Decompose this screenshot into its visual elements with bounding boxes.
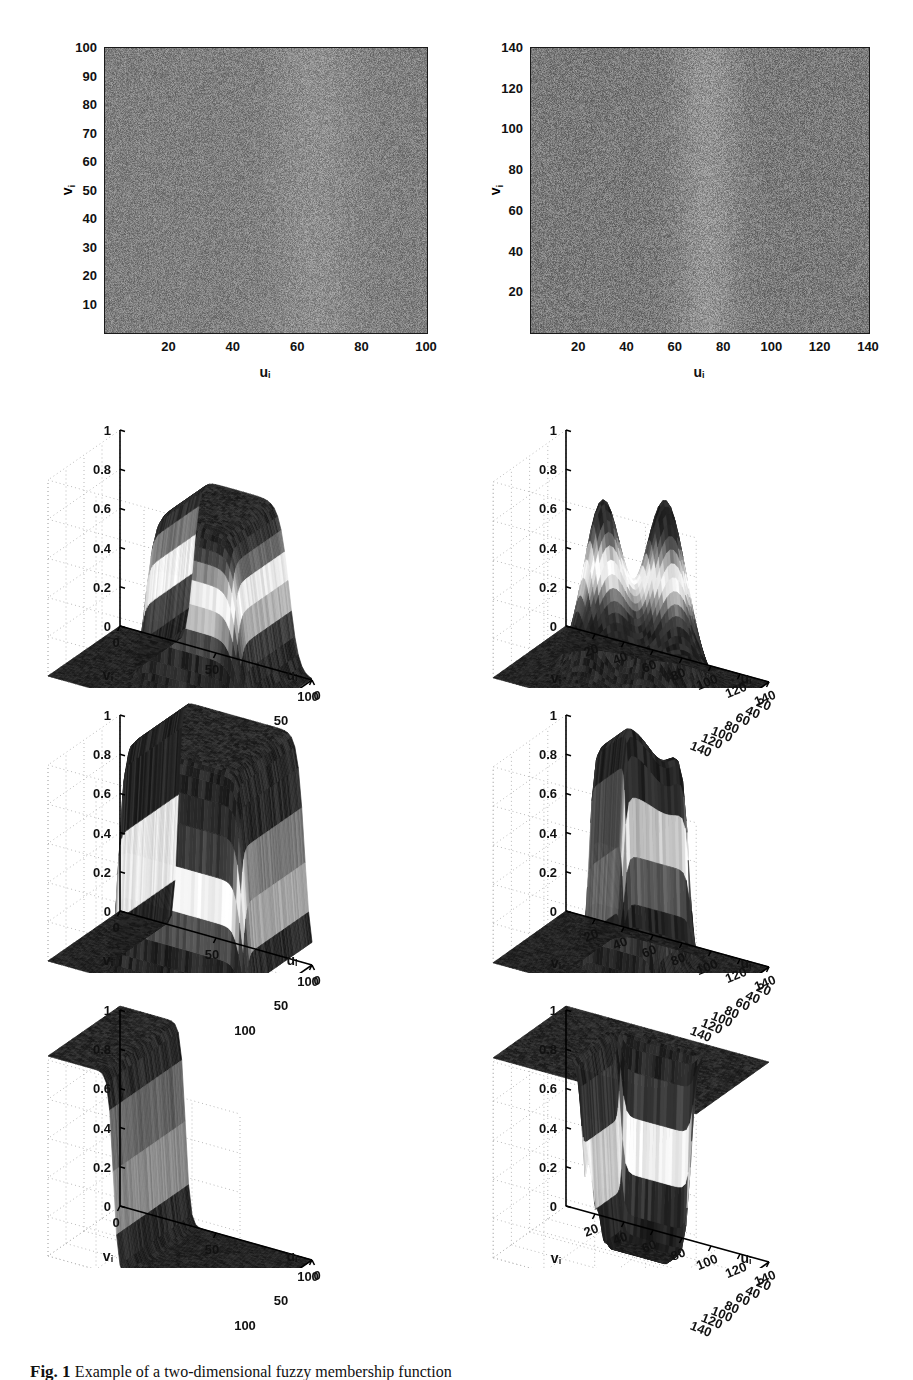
axis-tick: 10: [83, 296, 97, 311]
axis-label-u-r4c1: ui: [286, 1248, 297, 1265]
panel-r1c2-image-plot: vi ui 2040608010012014020406080100120140: [456, 0, 913, 390]
axis-tick: 120: [809, 339, 831, 354]
axis-tick: 0.8: [539, 1042, 557, 1057]
axis-tick: 30: [83, 239, 97, 254]
noisy-image-left: [104, 47, 428, 334]
axis-tick: 20: [161, 339, 175, 354]
axis-label-u-r2c1: ui: [286, 667, 297, 684]
caption-text: Example of a two-dimensional fuzzy membe…: [75, 1363, 452, 1380]
axis-tick: 1: [550, 708, 557, 723]
axis-tick: 50: [205, 662, 219, 677]
axis-tick: 0.2: [93, 1159, 111, 1174]
axis-tick: 0: [104, 1199, 111, 1214]
axis-tick: 20: [571, 339, 585, 354]
axis-tick: 80: [83, 97, 97, 112]
axis-tick: 60: [509, 202, 523, 217]
axis-tick: 0.4: [93, 825, 111, 840]
axis-tick: 50: [274, 1293, 288, 1308]
axis-tick: 0: [313, 1268, 320, 1283]
axis-label-v-r1c1: vi: [59, 185, 78, 195]
panel-r4c2-surface-plot: vi ui 00.20.40.60.8120406080100120140204…: [456, 968, 913, 1268]
axis-tick: 60: [290, 339, 304, 354]
axis-tick: 80: [509, 162, 523, 177]
noise-canvas: [531, 48, 869, 333]
axis-tick: 40: [226, 339, 240, 354]
axis-label-v-r1c2: vi: [487, 185, 506, 195]
axis-tick: 0.6: [93, 501, 111, 516]
axis-tick: 0.6: [539, 786, 557, 801]
axis-tick: 1: [104, 1003, 111, 1018]
axis-label-u-r1c1: ui: [259, 364, 270, 381]
axis-tick: 0.4: [93, 540, 111, 555]
axis-tick: 0.8: [93, 462, 111, 477]
axis-label-v-r4c1: vi: [103, 1248, 113, 1265]
surface-canvas: [456, 398, 913, 688]
noise-canvas: [105, 48, 427, 333]
axis-tick: 100: [501, 121, 523, 136]
axis-tick: 0: [112, 1215, 119, 1230]
axis-tick: 0.8: [539, 747, 557, 762]
axis-tick: 0: [104, 904, 111, 919]
panel-r3c2-surface-plot: vi ui 00.20.40.60.8120406080100120140204…: [456, 683, 913, 973]
axis-tick: 0.4: [93, 1120, 111, 1135]
axis-tick: 100: [75, 40, 97, 55]
caption-label: Fig. 1: [30, 1362, 71, 1380]
axis-tick: 20: [83, 268, 97, 283]
axis-label-u-r1c2: ui: [693, 364, 704, 381]
axis-tick: 40: [619, 339, 633, 354]
axis-tick: 1: [550, 1003, 557, 1018]
axis-tick: 0.4: [539, 1120, 557, 1135]
axis-tick: 50: [205, 1242, 219, 1257]
axis-tick: 100: [234, 1318, 256, 1333]
axis-tick: 20: [509, 284, 523, 299]
axis-tick: 1: [104, 708, 111, 723]
surface-canvas: [0, 683, 456, 973]
axis-tick: 140: [501, 40, 523, 55]
axis-tick: 0: [112, 920, 119, 935]
axis-tick: 1: [104, 423, 111, 438]
axis-tick: 60: [668, 339, 682, 354]
axis-tick: 0.2: [93, 579, 111, 594]
axis-tick: 0.2: [93, 864, 111, 879]
surface-canvas: [0, 968, 456, 1268]
panel-r2c2-surface-plot: vi ui 00.20.40.60.8120406080100120140204…: [456, 398, 913, 688]
axis-label-v-r2c1: vi: [103, 667, 113, 684]
figure-caption: Fig. 1 Example of a two-dimensional fuzz…: [30, 1362, 452, 1380]
axis-tick: 0.8: [93, 1042, 111, 1057]
axis-tick: 120: [501, 80, 523, 95]
axis-tick: 0: [550, 619, 557, 634]
surface-canvas: [0, 398, 456, 688]
panel-r1c1-image-plot: vi ui 20406080100102030405060708090100: [0, 0, 456, 390]
axis-tick: 0.2: [539, 864, 557, 879]
axis-tick: 0.6: [539, 501, 557, 516]
axis-tick: 100: [761, 339, 783, 354]
axis-tick: 0: [550, 1199, 557, 1214]
surface-canvas: [456, 683, 913, 973]
axis-tick: 80: [354, 339, 368, 354]
surface-canvas: [456, 968, 913, 1268]
axis-label-v-r3c1: vi: [103, 952, 113, 969]
axis-tick: 60: [83, 154, 97, 169]
axis-tick: 0.2: [539, 579, 557, 594]
axis-tick: 0.6: [539, 1081, 557, 1096]
axis-tick: 50: [205, 947, 219, 962]
axis-tick: 0.2: [539, 1159, 557, 1174]
axis-tick: 140: [857, 339, 879, 354]
axis-tick: 0: [104, 619, 111, 634]
axis-tick: 0: [550, 904, 557, 919]
axis-tick: 0.6: [93, 1081, 111, 1096]
panel-r2c1-surface-plot: vi ui 00.20.40.60.81050100050100: [0, 398, 456, 688]
axis-tick: 0.8: [93, 747, 111, 762]
axis-tick: 1: [550, 423, 557, 438]
axis-tick: 90: [83, 68, 97, 83]
axis-tick: 40: [509, 243, 523, 258]
axis-tick: 50: [83, 182, 97, 197]
panel-r3c1-surface-plot: vi ui 00.20.40.60.81050100050100: [0, 683, 456, 973]
axis-label-u-r3c1: ui: [286, 952, 297, 969]
panel-r4c1-surface-plot: vi ui 00.20.40.60.81050100050100: [0, 968, 456, 1268]
axis-tick: 100: [415, 339, 437, 354]
axis-tick: 70: [83, 125, 97, 140]
axis-tick: 0.4: [539, 540, 557, 555]
noisy-image-right: [530, 47, 870, 334]
axis-tick: 40: [83, 211, 97, 226]
